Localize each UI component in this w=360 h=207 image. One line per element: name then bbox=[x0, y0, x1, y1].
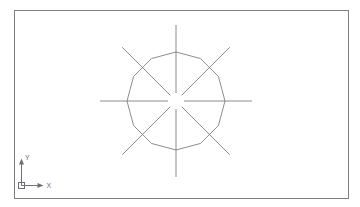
viewport-border bbox=[15, 11, 349, 199]
ucs-y-axis-label: Y bbox=[25, 154, 30, 161]
ucs-icon: Y X bbox=[19, 154, 52, 190]
cad-application-window: Y X Drawing Area Polygon with radial con… bbox=[0, 0, 360, 207]
ucs-y-axis-arrowhead bbox=[19, 159, 24, 165]
radial-line-135deg[interactable] bbox=[122, 107, 170, 155]
radial-line-45deg[interactable] bbox=[182, 107, 230, 155]
radial-construction-lines[interactable] bbox=[100, 25, 252, 177]
radial-line-225deg[interactable] bbox=[122, 47, 170, 95]
drawing-canvas[interactable]: Y X bbox=[0, 0, 360, 207]
ucs-x-axis-label: X bbox=[47, 182, 52, 189]
radial-line-315deg[interactable] bbox=[182, 47, 230, 95]
ucs-x-axis-arrowhead bbox=[38, 183, 44, 188]
